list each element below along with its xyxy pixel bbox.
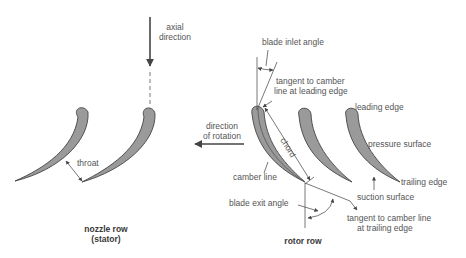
tangent-trailing-label-1: tangent to camber line (347, 213, 431, 223)
rotor-blade-2 (299, 108, 352, 182)
throat-label: throat (77, 158, 99, 168)
rotor-row-label: rotor row (284, 236, 322, 246)
turbine-blade-diagram: axial direction throat nozzle row (stato… (0, 0, 466, 258)
blade-inlet-angle-label: blade inlet angle (262, 37, 324, 47)
trailing-edge-label: trailing edge (401, 177, 448, 187)
leading-edge-label: leading edge (355, 102, 404, 112)
rotation-label-1: direction (206, 121, 238, 131)
blade-exit-angle-arc (308, 199, 333, 218)
chord-end-tick (305, 177, 314, 184)
rotation-label-2: of rotation (203, 131, 241, 141)
axial-direction-label-2: direction (159, 32, 191, 42)
rotor-blade-1 (252, 106, 305, 182)
camber-line-label: camber line (233, 172, 277, 182)
tangent-leading-label-2: line at leading edge (274, 86, 348, 96)
suction-surface-label: suction surface (357, 192, 414, 202)
blade-exit-angle-leader (298, 205, 318, 211)
blade-inlet-angle-arc (258, 68, 273, 70)
tangent-leading-leader (263, 101, 272, 107)
stator-blade-2 (82, 108, 155, 182)
axial-direction-label-1: axial (166, 22, 184, 32)
tangent-trailing-edge-line (305, 183, 350, 201)
tangent-trailing-label-2: at trailing edge (357, 223, 413, 233)
blade-exit-angle-label: blade exit angle (229, 198, 289, 208)
tangent-leading-label-1: tangent to camber (276, 76, 345, 86)
stator-blade-1 (15, 108, 88, 181)
blade-inlet-angle-leader (266, 50, 268, 66)
nozzle-row-label-1: nozzle row (84, 224, 128, 234)
pressure-surface-label: pressure surface (368, 139, 432, 149)
tangent-trailing-leader (350, 201, 357, 210)
nozzle-row-label-2: (stator) (91, 234, 120, 244)
